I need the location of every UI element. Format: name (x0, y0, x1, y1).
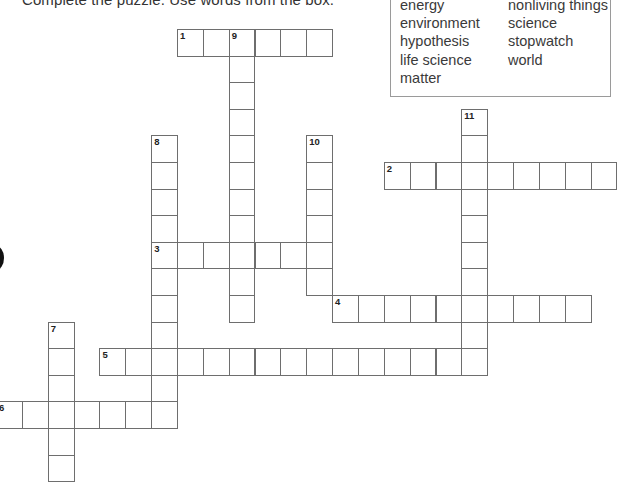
crossword-cell[interactable] (461, 322, 488, 350)
crossword-cell[interactable] (48, 401, 75, 429)
crossword-cell[interactable] (229, 215, 256, 243)
crossword-cell[interactable] (306, 348, 333, 376)
crossword-cell[interactable] (565, 295, 592, 323)
crossword-cell[interactable] (151, 322, 178, 350)
crossword-cell[interactable] (48, 375, 75, 403)
crossword-cell[interactable] (74, 401, 101, 429)
crossword-cell[interactable] (229, 189, 256, 217)
crossword-cell[interactable]: 11 (461, 109, 488, 137)
crossword-cell[interactable]: 9 (229, 29, 256, 57)
crossword-cell[interactable] (306, 29, 333, 57)
clue-number: 6 (0, 403, 4, 413)
clue-number: 5 (102, 350, 107, 360)
crossword-cell[interactable] (151, 375, 178, 403)
clue-number: 1 (180, 31, 185, 41)
crossword-cell[interactable] (255, 29, 282, 57)
crossword-cell[interactable] (436, 162, 463, 190)
clue-number: 9 (232, 31, 237, 41)
crossword-cell[interactable] (461, 162, 488, 190)
crossword-cell[interactable] (384, 348, 411, 376)
crossword-cell[interactable] (461, 135, 488, 163)
crossword-cell[interactable]: 6 (0, 401, 23, 429)
crossword-cell[interactable] (384, 295, 411, 323)
crossword-cell[interactable] (410, 348, 437, 376)
crossword-cell[interactable] (513, 162, 540, 190)
clue-number: 8 (154, 137, 159, 147)
crossword-cell[interactable] (203, 348, 230, 376)
crossword-cell[interactable] (358, 295, 385, 323)
crossword-cell[interactable] (229, 242, 256, 270)
crossword-cell[interactable] (229, 135, 256, 163)
crossword-cell[interactable] (410, 295, 437, 323)
crossword-cell[interactable] (151, 162, 178, 190)
crossword-cell[interactable] (229, 162, 256, 190)
crossword-cell[interactable] (151, 348, 178, 376)
clue-number: 2 (387, 164, 392, 174)
crossword-cell[interactable] (125, 348, 152, 376)
crossword-cell[interactable] (461, 215, 488, 243)
crossword-cell[interactable] (151, 401, 178, 429)
crossword-cell[interactable] (99, 401, 126, 429)
crossword-cell[interactable] (151, 189, 178, 217)
crossword-cell[interactable]: 5 (99, 348, 126, 376)
crossword-cell[interactable] (539, 162, 566, 190)
crossword-cell[interactable] (203, 29, 230, 57)
crossword-cell[interactable] (151, 295, 178, 323)
crossword-cell[interactable] (229, 109, 256, 137)
crossword-cell[interactable] (22, 401, 49, 429)
crossword-cell[interactable]: 3 (151, 242, 178, 270)
crossword-cell[interactable] (151, 215, 178, 243)
crossword-cell[interactable] (151, 268, 178, 296)
crossword-cell[interactable] (461, 295, 488, 323)
crossword-cell[interactable] (461, 268, 488, 296)
crossword-cell[interactable] (591, 162, 618, 190)
crossword-cell[interactable] (306, 215, 333, 243)
crossword-cell[interactable] (177, 348, 204, 376)
clue-number: 10 (309, 137, 320, 147)
crossword-cell[interactable] (461, 348, 488, 376)
crossword-cell[interactable] (229, 268, 256, 296)
clue-number: 3 (154, 244, 159, 254)
crossword-cell[interactable] (487, 295, 514, 323)
crossword-cell[interactable] (177, 242, 204, 270)
crossword-cell[interactable] (306, 162, 333, 190)
crossword-cell[interactable] (513, 295, 540, 323)
crossword-cell[interactable] (280, 29, 307, 57)
crossword-cell[interactable]: 4 (332, 295, 359, 323)
crossword-cell[interactable] (125, 401, 152, 429)
crossword-cell[interactable] (358, 348, 385, 376)
crossword-cell[interactable] (306, 189, 333, 217)
crossword-cell[interactable] (48, 348, 75, 376)
crossword-cell[interactable] (436, 348, 463, 376)
clue-number: 4 (335, 297, 340, 307)
crossword-cell[interactable] (48, 428, 75, 456)
crossword-cell[interactable] (487, 162, 514, 190)
crossword-cell[interactable] (332, 348, 359, 376)
crossword-cell[interactable]: 7 (48, 322, 75, 350)
crossword-cell[interactable] (436, 295, 463, 323)
crossword-cell[interactable] (229, 82, 256, 110)
crossword-cell[interactable] (229, 295, 256, 323)
crossword-cell[interactable]: 1 (177, 29, 204, 57)
crossword-cell[interactable] (48, 455, 75, 482)
crossword-cell[interactable] (280, 242, 307, 270)
clue-number: 11 (464, 111, 474, 121)
crossword-cell[interactable]: 2 (384, 162, 411, 190)
crossword-cell[interactable]: 8 (151, 135, 178, 163)
crossword-cell[interactable] (203, 242, 230, 270)
crossword-cell[interactable] (306, 242, 333, 270)
crossword-cell[interactable] (229, 348, 256, 376)
crossword-cell[interactable] (461, 242, 488, 270)
crossword-cell[interactable] (565, 162, 592, 190)
crossword-cell[interactable] (461, 189, 488, 217)
crossword-cell[interactable] (255, 348, 282, 376)
crossword-cell[interactable] (280, 348, 307, 376)
crossword-cell[interactable] (255, 242, 282, 270)
clue-number: 7 (51, 324, 56, 334)
crossword-cell[interactable]: 10 (306, 135, 333, 163)
crossword-cell[interactable] (229, 56, 256, 84)
crossword-cell[interactable] (410, 162, 437, 190)
crossword-cell[interactable] (306, 268, 333, 296)
crossword-cell[interactable] (539, 295, 566, 323)
